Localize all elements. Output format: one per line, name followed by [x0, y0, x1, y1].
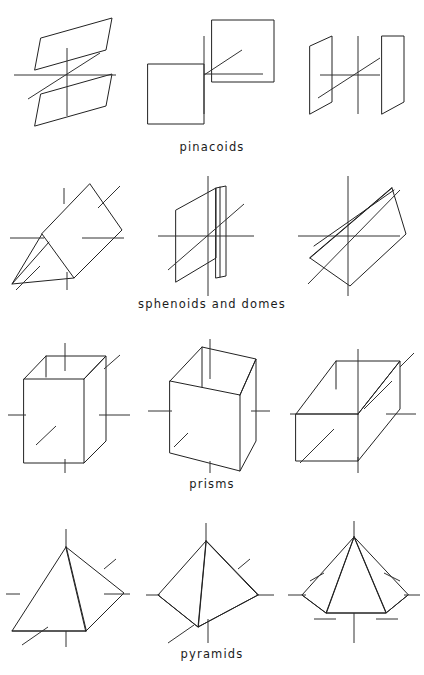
a-axis-mid [364, 381, 392, 409]
figure-front-pinacoid [146, 6, 282, 128]
caption-prisms: prisms [0, 477, 424, 491]
figure-oblique-pyramid [4, 515, 140, 647]
vertical-prism-drawing [4, 331, 140, 473]
a-axis [318, 58, 380, 98]
a-axis [168, 204, 244, 270]
figure-sphenoid-inclined [288, 172, 420, 300]
figure-sphenoid-tilted [4, 172, 140, 296]
lower-square-face [148, 64, 204, 124]
a-axis-far-left [310, 573, 324, 581]
a-axis-far [98, 186, 120, 208]
side-pinacoid-drawing [288, 6, 420, 128]
inclined-rhomb-face [310, 188, 406, 286]
oblique-pyramid-drawing [4, 515, 140, 647]
sphenoid-inclined-drawing [288, 172, 420, 300]
pyramid-left-face [12, 547, 86, 631]
figure-steep-pyramid [146, 515, 282, 647]
dome-face [176, 188, 216, 282]
sym-front-face [326, 537, 386, 613]
a-axis [204, 50, 242, 75]
a-axis-near [22, 627, 48, 645]
basal-pinacoid-drawing [4, 6, 140, 128]
a-axis-near [16, 266, 40, 290]
symmetric-pyramid-drawing [288, 515, 420, 647]
caption-pyramids: pyramids [0, 647, 424, 661]
figure-vertical-prism [4, 331, 140, 473]
a-axis-near [36, 426, 56, 445]
steep-pyramid-drawing [146, 515, 282, 647]
horiz-top-face [296, 361, 400, 414]
upper-square-face [212, 20, 274, 82]
figure-side-pinacoid [288, 6, 420, 128]
figure-basal-pinacoid [4, 6, 140, 128]
rhomb-diagonal [310, 188, 392, 258]
figure-horizontal-prism [288, 331, 420, 473]
a-axis-far-right [384, 573, 400, 581]
horiz-front-face [296, 414, 358, 461]
oblique-front-face [170, 381, 240, 471]
prism-right-face [84, 356, 106, 463]
sym-left-face [302, 537, 354, 613]
oblique-prism-drawing [146, 331, 282, 473]
a-axis-far [104, 559, 116, 569]
rhomb-face [42, 184, 122, 278]
a-axis [308, 190, 400, 284]
wedge-edge [12, 242, 49, 284]
caption-sphenoids-and-domes: sphenoids and domes [0, 297, 424, 311]
horizontal-prism-drawing [288, 331, 420, 473]
lower-pinacoid-face [35, 74, 112, 126]
a-axis-near [174, 433, 188, 447]
sliver-face [216, 186, 226, 278]
crystal-forms-plate: pinacoids [0, 0, 424, 675]
right-vertical-face [382, 36, 404, 114]
dome-drawing [146, 172, 282, 300]
oblique-right-face [240, 359, 256, 471]
a-axis-far [400, 353, 414, 367]
figure-oblique-prism [146, 331, 282, 473]
a-axis [28, 53, 100, 99]
prism-front-face [24, 379, 84, 463]
steep-front-face [198, 541, 258, 627]
sphenoid-tilted-drawing [4, 172, 140, 296]
a-axis-near [300, 429, 334, 463]
upper-pinacoid-face [35, 18, 112, 70]
steep-right-face [206, 541, 258, 595]
a-axis-far [238, 559, 250, 569]
a-axis-near [168, 625, 194, 643]
figure-dome-vertical-plane [146, 172, 282, 300]
caption-pinacoids: pinacoids [0, 140, 424, 154]
figure-symmetric-pyramid [288, 515, 420, 647]
horiz-right-face [358, 361, 400, 461]
sym-base-edges [302, 595, 408, 613]
front-pinacoid-drawing [146, 6, 282, 128]
wedge-face [12, 234, 74, 284]
